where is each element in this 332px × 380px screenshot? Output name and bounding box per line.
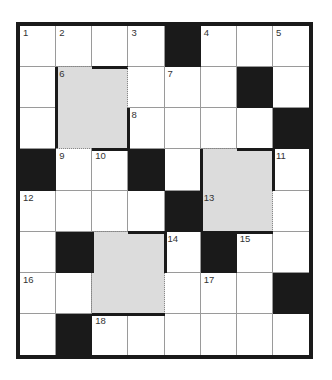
- shaded-cell[interactable]: [237, 149, 273, 190]
- black-square: [56, 232, 92, 273]
- black-square: [201, 232, 237, 273]
- region-dotted-border: [272, 191, 273, 232]
- clue-number: 3: [131, 28, 136, 38]
- region-border: [201, 231, 273, 234]
- answer-cell[interactable]: [128, 191, 164, 232]
- answer-cell[interactable]: [273, 191, 309, 232]
- clue-number: 12: [23, 193, 34, 203]
- answer-cell[interactable]: [92, 191, 128, 232]
- region-border: [128, 231, 164, 234]
- answer-cell[interactable]: 5: [273, 26, 309, 67]
- answer-cell[interactable]: [128, 314, 164, 355]
- answer-cell[interactable]: 16: [20, 273, 56, 314]
- answer-cell[interactable]: [201, 108, 237, 149]
- clue-number: 10: [95, 151, 106, 161]
- answer-cell[interactable]: 15: [237, 232, 273, 273]
- answer-cell[interactable]: [56, 191, 92, 232]
- region-border: [55, 67, 58, 149]
- black-square: [165, 191, 201, 232]
- answer-cell[interactable]: [237, 26, 273, 67]
- answer-cell[interactable]: [273, 67, 309, 108]
- answer-cell[interactable]: [20, 232, 56, 273]
- region-border: [164, 232, 167, 273]
- answer-cell[interactable]: 12: [20, 191, 56, 232]
- region-dotted-border: [56, 66, 92, 67]
- answer-cell[interactable]: 1: [20, 26, 56, 67]
- black-square: [237, 67, 273, 108]
- shaded-cell[interactable]: [92, 108, 128, 149]
- black-square: [56, 314, 92, 355]
- black-square: [20, 149, 56, 190]
- answer-cell[interactable]: 18: [92, 314, 128, 355]
- clue-number: 17: [204, 275, 215, 285]
- clue-number: 1: [23, 28, 28, 38]
- region-border: [92, 148, 130, 151]
- answer-cell[interactable]: [20, 314, 56, 355]
- answer-cell[interactable]: 2: [56, 26, 92, 67]
- region-border: [91, 232, 94, 273]
- shaded-cell[interactable]: 13: [201, 191, 237, 232]
- answer-cell[interactable]: [165, 149, 201, 190]
- answer-cell[interactable]: [237, 108, 273, 149]
- clue-number: 16: [23, 275, 34, 285]
- region-border: [200, 149, 203, 231]
- answer-cell[interactable]: [273, 314, 309, 355]
- shaded-cell[interactable]: [201, 149, 237, 190]
- answer-cell[interactable]: [201, 67, 237, 108]
- answer-cell[interactable]: 8: [128, 108, 164, 149]
- answer-cell[interactable]: 10: [92, 149, 128, 190]
- answer-cell[interactable]: [201, 314, 237, 355]
- shaded-cell[interactable]: [92, 232, 128, 273]
- region-dotted-border: [127, 67, 128, 108]
- shaded-cell[interactable]: [92, 273, 128, 314]
- clue-number: 13: [204, 193, 215, 203]
- answer-cell[interactable]: 7: [165, 67, 201, 108]
- black-square: [128, 149, 164, 190]
- answer-cell[interactable]: 11: [273, 149, 309, 190]
- region-border: [92, 313, 164, 316]
- clue-number: 9: [59, 151, 64, 161]
- answer-cell[interactable]: [165, 273, 201, 314]
- answer-cell[interactable]: [20, 67, 56, 108]
- region-dotted-border: [56, 148, 92, 149]
- answer-cell[interactable]: [237, 273, 273, 314]
- black-square: [273, 273, 309, 314]
- answer-cell[interactable]: [165, 314, 201, 355]
- answer-cell[interactable]: [56, 273, 92, 314]
- region-dotted-border: [91, 273, 92, 314]
- region-border: [272, 149, 275, 190]
- clue-number: 14: [168, 234, 179, 244]
- answer-cell[interactable]: 4: [201, 26, 237, 67]
- answer-cell[interactable]: [237, 314, 273, 355]
- region-border: [237, 148, 273, 151]
- clue-number: 11: [276, 151, 286, 161]
- region-border: [92, 66, 128, 69]
- clue-number: 4: [204, 28, 209, 38]
- answer-cell[interactable]: [273, 232, 309, 273]
- black-square: [273, 108, 309, 149]
- shaded-cell[interactable]: [128, 273, 164, 314]
- answer-cell[interactable]: 17: [201, 273, 237, 314]
- clue-number: 15: [240, 234, 251, 244]
- clue-number: 5: [276, 28, 281, 38]
- answer-cell[interactable]: 3: [128, 26, 164, 67]
- clue-number: 7: [168, 69, 173, 79]
- region-border: [127, 108, 130, 149]
- region-dotted-border: [201, 148, 237, 149]
- region-dotted-border: [92, 231, 128, 232]
- answer-cell[interactable]: [20, 108, 56, 149]
- shaded-cell[interactable]: [237, 191, 273, 232]
- clue-number: 2: [59, 28, 64, 38]
- shaded-cell[interactable]: [56, 108, 92, 149]
- answer-cell[interactable]: 14: [165, 232, 201, 273]
- crossword-grid: 123456789101112131415161718: [16, 22, 313, 359]
- clue-number: 18: [95, 316, 106, 326]
- answer-cell[interactable]: [128, 67, 164, 108]
- answer-cell[interactable]: [92, 26, 128, 67]
- answer-cell[interactable]: [165, 108, 201, 149]
- shaded-cell[interactable]: [92, 67, 128, 108]
- shaded-cell[interactable]: [128, 232, 164, 273]
- clue-number: 8: [131, 110, 136, 120]
- answer-cell[interactable]: 9: [56, 149, 92, 190]
- shaded-cell[interactable]: 6: [56, 67, 92, 108]
